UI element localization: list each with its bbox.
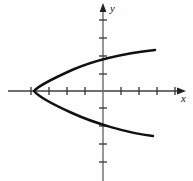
graph-figure: y x xyxy=(0,0,193,181)
x-axis-label: x xyxy=(180,92,186,104)
y-axis-arrow-icon xyxy=(100,3,107,12)
y-axis-label: y xyxy=(109,2,115,14)
coordinate-plane: y x xyxy=(0,0,193,181)
parabola-curve xyxy=(34,50,155,136)
